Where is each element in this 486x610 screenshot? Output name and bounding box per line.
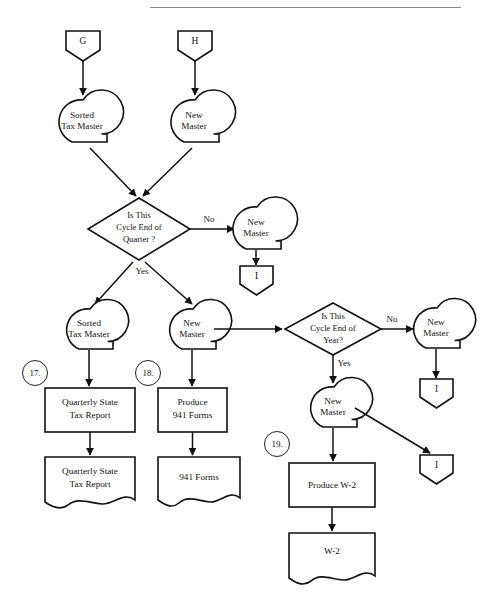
edge-newmaster3-to-connector-i3: [355, 408, 430, 453]
decision-end-of-quarter-line3: Quarter ?: [123, 234, 155, 244]
edge-label-year-no: No: [387, 314, 398, 324]
tape-new-master-quarter-no-line2: Master: [243, 228, 269, 238]
tape-sorted-tax-master-2: Sorted Tax Master: [67, 300, 129, 349]
document-18-line1: 941 Forms: [179, 472, 219, 482]
connector-i-3: I: [420, 455, 453, 484]
tape-new-master-1: New Master: [171, 90, 235, 142]
edge-newmaster1-to-decision-quarter: [143, 148, 192, 196]
connector-h: H: [178, 31, 212, 61]
document-19-line1: W-2: [324, 546, 340, 556]
decision-end-of-year: Is This Cycle End of Year?: [285, 303, 381, 355]
tape-new-master-3: New Master: [311, 378, 373, 427]
tape-sorted-tax-master-1-line2: Tax Master: [61, 121, 102, 131]
connector-i-3-label: I: [435, 460, 438, 470]
step-number-19-label: 19.: [271, 439, 282, 449]
tape-new-master-3-line2: Master: [320, 407, 346, 417]
edge-quarter-yes-right: [145, 262, 192, 304]
edge-label-quarter-yes: Yes: [135, 266, 149, 276]
edge-label-year-yes: Yes: [337, 358, 351, 368]
connector-i-1-label: I: [255, 271, 258, 281]
decision-end-of-quarter-line2: Cycle End of: [116, 222, 161, 232]
connector-i-2-label: I: [435, 384, 438, 394]
edge-label-quarter-no: No: [204, 214, 215, 224]
tape-sorted-tax-master-1: Sorted Tax Master: [59, 90, 123, 142]
tape-new-master-year-no-line2: Master: [423, 328, 449, 338]
step-number-17: 17.: [23, 361, 48, 386]
process-18-line2: 941 Forms: [173, 410, 213, 420]
document-w2: W-2: [289, 533, 375, 584]
process-produce-w2: Produce W-2: [289, 463, 375, 507]
document-941-forms: 941 Forms: [158, 457, 240, 506]
connector-i-2: I: [420, 379, 453, 408]
document-quarterly-state-tax-report: Quarterly State Tax Report: [45, 457, 135, 508]
tape-new-master-quarter-no-line1: New: [247, 217, 265, 227]
process-quarterly-state-tax-report: Quarterly State Tax Report: [45, 388, 135, 432]
tape-sorted-tax-master-2-line1: Sorted: [77, 318, 101, 328]
tape-new-master-2: New Master: [170, 300, 232, 349]
tape-new-master-1-line1: New: [185, 110, 203, 120]
document-17-line2: Tax Report: [70, 479, 111, 489]
step-number-18: 18.: [136, 361, 161, 386]
document-17-line1: Quarterly State: [62, 466, 118, 476]
process-17-line2: Tax Report: [70, 410, 111, 420]
flowchart-canvas: G H Sorted Tax Master New Master Is This…: [0, 0, 486, 610]
edge-sorted1-to-decision-quarter: [90, 148, 136, 196]
decision-end-of-year-line2: Cycle End of: [310, 323, 355, 333]
connector-h-label: H: [192, 36, 199, 46]
process-18-line1: Produce: [177, 397, 207, 407]
tape-new-master-2-line1: New: [183, 318, 201, 328]
tape-new-master-1-line2: Master: [181, 121, 207, 131]
decision-end-of-year-line3: Year?: [323, 335, 343, 345]
edge-quarter-yes-left: [95, 262, 133, 304]
step-number-18-label: 18.: [142, 368, 153, 378]
connector-i-1: I: [240, 266, 273, 295]
decision-end-of-year-line1: Is This: [321, 311, 345, 321]
process-19-line1: Produce W-2: [308, 480, 356, 490]
tape-new-master-year-no: New Master: [414, 299, 476, 348]
step-number-19: 19.: [265, 432, 290, 457]
step-number-17-label: 17.: [29, 368, 40, 378]
tape-new-master-quarter-no: New Master: [233, 197, 297, 249]
decision-end-of-quarter-line1: Is This: [127, 210, 151, 220]
process-produce-941-forms: Produce 941 Forms: [158, 388, 227, 432]
tape-new-master-year-no-line1: New: [427, 317, 445, 327]
connector-g-label: G: [80, 36, 87, 46]
tape-new-master-3-line1: New: [324, 396, 342, 406]
tape-new-master-2-line2: Master: [179, 329, 205, 339]
process-17-line1: Quarterly State: [62, 397, 118, 407]
decision-end-of-quarter: Is This Cycle End of Quarter ?: [88, 198, 190, 260]
connector-g: G: [66, 31, 100, 61]
tape-sorted-tax-master-2-line2: Tax Master: [68, 329, 109, 339]
tape-sorted-tax-master-1-line1: Sorted: [70, 110, 94, 120]
